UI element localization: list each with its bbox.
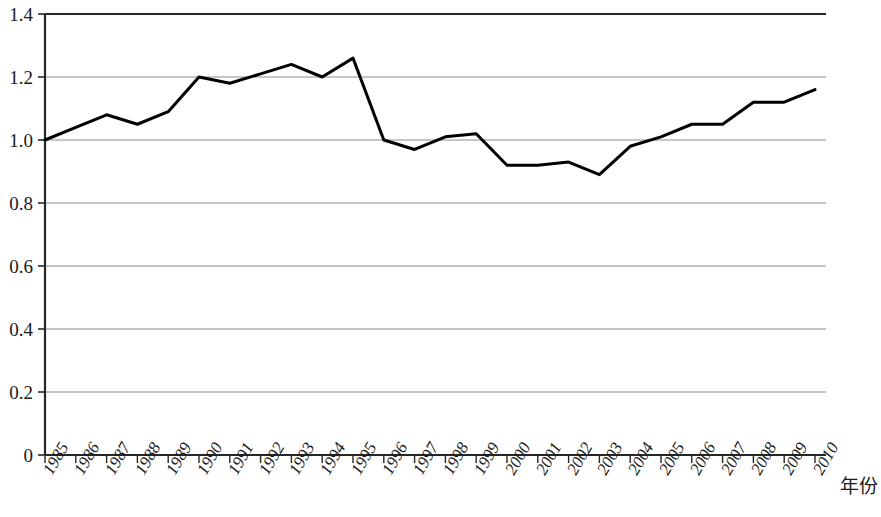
y-tick-label: 0 — [0, 446, 33, 465]
line-chart: 1.41.21.00.80.60.40.20 19851986198719881… — [0, 0, 881, 517]
y-tick-label: 1.4 — [0, 5, 33, 24]
y-tick-label: 1.0 — [0, 131, 33, 150]
y-tick-label: 0.4 — [0, 320, 33, 339]
x-axis-title: 年份 — [840, 477, 878, 496]
y-tick-label: 0.2 — [0, 383, 33, 402]
data-series-line — [45, 58, 815, 175]
y-tick-label: 0.6 — [0, 257, 33, 276]
y-tick-label: 1.2 — [0, 68, 33, 87]
y-tick-label: 0.8 — [0, 194, 33, 213]
chart-canvas — [0, 0, 881, 517]
